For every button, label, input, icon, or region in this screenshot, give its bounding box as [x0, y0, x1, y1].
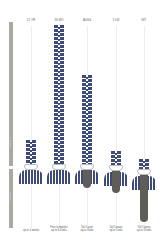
column-3: AUG4 Tail 1 year up to 3 wks [74, 0, 100, 242]
column-4: 1 LW Tail 5 years up to 5 wks [103, 0, 129, 242]
column-1: 21 YR up to 4 weeks [18, 0, 44, 242]
scale-divider [9, 166, 13, 169]
column-5: NIT Tail 5 years up to 10 wks [131, 0, 157, 242]
footer-line-2: up to 3 wks [71, 229, 103, 232]
shirt-icon [47, 170, 71, 184]
scale-label-lower: tail length [9, 172, 13, 222]
column-header: NIT [131, 18, 157, 22]
column-header: 21 YR [18, 18, 44, 22]
tie-tail [83, 168, 91, 188]
chain-tie-icon [82, 75, 92, 166]
footer-line-2: up to 10 wks [128, 229, 160, 232]
column-2: 36 MO Four to months up to 6-8 wks [46, 0, 72, 242]
column-header: AUG4 [74, 18, 100, 22]
guide-line [116, 26, 117, 228]
scale-label-upper: length of tie [9, 122, 13, 162]
collar-icon [137, 169, 151, 175]
column-footer: Tail 5 years up to 10 wks [128, 226, 160, 232]
tie-tail [112, 170, 120, 193]
shirt-icon [19, 170, 43, 184]
collar-icon [109, 165, 123, 171]
column-footer: Tail 1 year up to 3 wks [71, 226, 103, 232]
chain-tie-icon [26, 140, 36, 166]
column-header: 1 LW [103, 18, 129, 22]
tie-tail [140, 174, 148, 222]
guide-line [31, 26, 32, 228]
chain-tie-icon [54, 25, 64, 166]
vertical-scale-bar: length of tie tail length [9, 22, 13, 228]
column-header: 36 MO [46, 18, 72, 22]
collar-icon [80, 164, 94, 170]
